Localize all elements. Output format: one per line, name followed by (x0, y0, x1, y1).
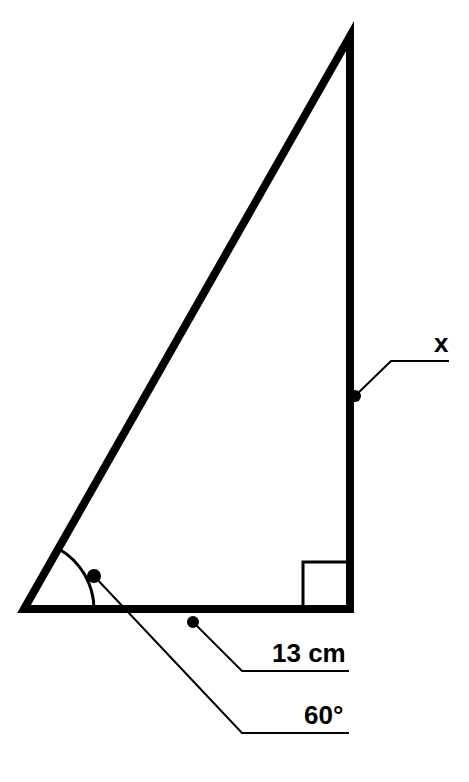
leader-dot-x (349, 390, 361, 402)
side-label-length: 13 cm (272, 638, 346, 668)
leader-dot-13-cm (187, 616, 199, 628)
diagram-root: x 13 cm 60° (0, 0, 469, 782)
right-triangle-figure: x 13 cm 60° (0, 0, 469, 782)
side-label-x: x (434, 328, 449, 358)
angle-label-measure: 60° (304, 700, 343, 730)
leader-dot-60-degrees (87, 569, 101, 583)
